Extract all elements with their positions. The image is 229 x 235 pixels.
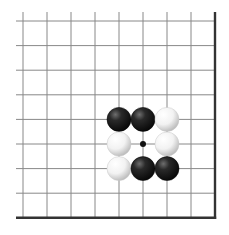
black-stone-icon (131, 107, 155, 131)
white-stone-icon (155, 107, 179, 131)
go-board (0, 0, 229, 235)
black-stone-icon (131, 157, 155, 181)
white-stone-icon (107, 132, 131, 156)
black-stone-icon (155, 157, 179, 181)
star-points (140, 141, 146, 147)
white-stone-icon (155, 132, 179, 156)
black-stone-icon (107, 107, 131, 131)
white-stone-icon (107, 157, 131, 181)
star-point-icon (140, 141, 146, 147)
